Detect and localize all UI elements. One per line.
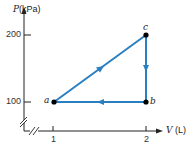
y-tick-label-100: 100 — [6, 97, 21, 106]
y-axis — [20, 7, 31, 131]
point-b — [143, 99, 148, 104]
point-b-label: b — [150, 97, 156, 106]
x-tick-label-1: 1 — [51, 135, 56, 144]
pv-diagram: P(kPa) 200 100 1 2 V (L) a b c — [0, 0, 192, 155]
x-axis-arrow-icon — [156, 129, 163, 134]
y-tick-label-200: 200 — [6, 30, 21, 39]
point-c — [143, 32, 148, 37]
x-axis-symbol: V — [166, 125, 173, 135]
y-axis-title: P(kPa) — [13, 5, 41, 14]
point-a — [51, 99, 56, 104]
diagram-canvas — [0, 0, 192, 155]
x-axis-title: V (L) — [166, 126, 186, 135]
point-a-label: a — [44, 96, 49, 105]
x-axis-unit: (L) — [175, 125, 186, 135]
x-axis — [24, 126, 163, 135]
y-axis-unit: (kPa) — [19, 4, 41, 14]
arrow-c-to-b-icon — [143, 65, 149, 72]
point-c-label: c — [143, 23, 148, 32]
arrow-b-to-a-icon — [97, 99, 104, 105]
x-tick-label-2: 2 — [144, 135, 149, 144]
